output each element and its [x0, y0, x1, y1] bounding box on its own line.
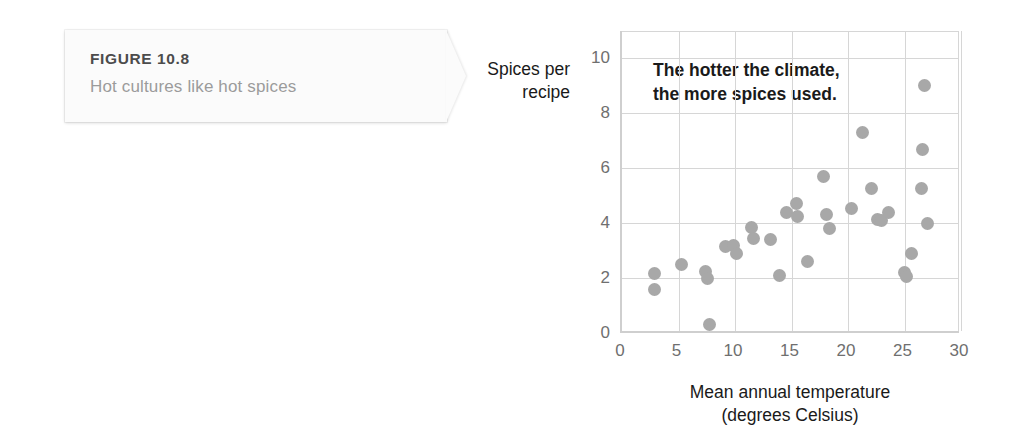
x-tick-label: 30 [939, 341, 979, 361]
chart-annotation-line1: The hotter the climate, [653, 58, 840, 82]
y-tick-label: 8 [570, 103, 610, 123]
scatter-point [900, 270, 913, 283]
x-gridline [848, 31, 849, 331]
scatter-point [701, 272, 714, 285]
y-tick-label: 0 [570, 323, 610, 343]
y-gridline [622, 113, 959, 114]
scatter-point [801, 255, 814, 268]
x-gridline [905, 31, 906, 331]
scatter-point [823, 222, 836, 235]
scatter-point [773, 269, 786, 282]
scatter-chart: Spices per recipe Mean annual temperatur… [0, 0, 1024, 447]
scatter-point [820, 208, 833, 221]
y-tick-label: 6 [570, 158, 610, 178]
y-tick-label: 4 [570, 213, 610, 233]
x-gridline [735, 31, 736, 331]
x-tick-label: 5 [657, 341, 697, 361]
scatter-point [856, 126, 869, 139]
scatter-point [791, 210, 804, 223]
x-gridline [679, 31, 680, 331]
plot-frame-top [622, 31, 959, 32]
scatter-point [648, 283, 661, 296]
x-axis-title-line1: Mean annual temperature [620, 381, 960, 404]
y-gridline [622, 223, 959, 224]
y-tick-label: 2 [570, 268, 610, 288]
x-axis-title: Mean annual temperature (degrees Celsius… [620, 381, 960, 427]
x-axis-title-line2: (degrees Celsius) [620, 404, 960, 427]
x-gridline [961, 31, 962, 331]
scatter-point [747, 232, 760, 245]
plot-area: The hotter the climate, the more spices … [620, 31, 959, 333]
scatter-point [675, 258, 688, 271]
scatter-point [882, 206, 895, 219]
x-tick-label: 15 [770, 341, 810, 361]
scatter-point [703, 318, 716, 331]
scatter-point [905, 247, 918, 260]
scatter-point [817, 170, 830, 183]
x-tick-label: 0 [600, 341, 640, 361]
scatter-point [790, 197, 803, 210]
scatter-point [730, 247, 743, 260]
y-axis-title: Spices per recipe [466, 58, 570, 104]
scatter-point [865, 182, 878, 195]
scatter-point [916, 143, 929, 156]
figure-root: FIGURE 10.8 Hot cultures like hot spices… [0, 0, 1024, 447]
y-gridline [622, 168, 959, 169]
x-gridline [792, 31, 793, 331]
scatter-point [915, 182, 928, 195]
y-gridline [622, 58, 959, 59]
plot-frame-right [958, 31, 959, 331]
y-axis-title-line1: Spices per [466, 58, 570, 81]
y-tick-label: 10 [570, 48, 610, 68]
scatter-point [918, 79, 931, 92]
x-tick-label: 20 [826, 341, 866, 361]
x-tick-label: 10 [713, 341, 753, 361]
scatter-point [764, 233, 777, 246]
scatter-point [921, 217, 934, 230]
scatter-point [845, 202, 858, 215]
x-tick-label: 25 [883, 341, 923, 361]
y-axis-title-line2: recipe [466, 81, 570, 104]
chart-annotation-line2: the more spices used. [653, 82, 840, 106]
